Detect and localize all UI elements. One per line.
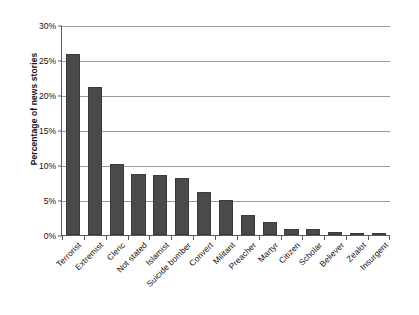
bar-slot — [149, 26, 171, 235]
y-axis-tick-label: 0% — [44, 231, 56, 241]
bar[interactable] — [131, 174, 145, 235]
bar-series — [62, 26, 390, 235]
bar[interactable] — [175, 178, 189, 235]
bar[interactable] — [219, 200, 233, 235]
bar[interactable] — [241, 215, 255, 235]
bar[interactable] — [306, 229, 320, 235]
bar[interactable] — [284, 229, 298, 235]
bar-slot — [84, 26, 106, 235]
bar[interactable] — [66, 54, 80, 235]
bar[interactable] — [263, 222, 277, 235]
bar-slot — [215, 26, 237, 235]
bar[interactable] — [153, 175, 167, 235]
y-axis-tick-label: 5% — [44, 196, 56, 206]
bar-slot — [324, 26, 346, 235]
bar-chart: Percentage of news stories 0%5%10%15%20%… — [0, 0, 419, 315]
bar-slot — [171, 26, 193, 235]
bar-slot — [281, 26, 303, 235]
bar-slot — [237, 26, 259, 235]
bar-slot — [193, 26, 215, 235]
bar[interactable] — [110, 164, 124, 235]
bar[interactable] — [372, 233, 386, 235]
bar-slot — [62, 26, 84, 235]
y-axis-tick-label: 25% — [39, 56, 56, 66]
x-axis-tick-label: Martyr — [256, 240, 280, 264]
y-axis-tick-label: 20% — [39, 91, 56, 101]
bar-slot — [106, 26, 128, 235]
y-axis-tick-label: 10% — [39, 161, 56, 171]
bar-slot — [346, 26, 368, 235]
bar[interactable] — [197, 192, 211, 235]
x-axis-labels: TerroristExtremistClericNot statedIslami… — [61, 240, 390, 315]
bar-slot — [302, 26, 324, 235]
bar[interactable] — [328, 232, 342, 235]
y-axis-title: Percentage of news stories — [29, 9, 39, 209]
bar[interactable] — [350, 233, 364, 235]
bar-slot — [368, 26, 390, 235]
y-axis-tick-label: 15% — [39, 126, 56, 136]
bar-slot — [128, 26, 150, 235]
plot-area: 0%5%10%15%20%25%30% — [61, 26, 390, 236]
bar-slot — [259, 26, 281, 235]
bar[interactable] — [88, 87, 102, 235]
y-axis-tick-label: 30% — [39, 21, 56, 31]
